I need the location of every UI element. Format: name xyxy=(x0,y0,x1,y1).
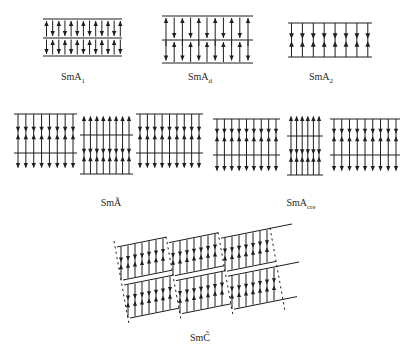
label-text: SmA xyxy=(61,71,82,82)
diagram-smctilde xyxy=(114,224,299,323)
label-smad: SmAd xyxy=(188,72,212,83)
diagram-sma1 xyxy=(43,19,123,56)
diagram-smad xyxy=(162,16,253,63)
diagram-smacre xyxy=(213,116,400,175)
label-text: SmA xyxy=(309,71,330,82)
label-text: SmA xyxy=(188,71,209,82)
label-text: SmA xyxy=(286,197,307,208)
figure-smectic-phases: SmA1 SmAd SmA2 SmÃ SmAcre SmC̃ xyxy=(0,0,405,358)
label-text: SmC̃ xyxy=(190,332,210,343)
label-smatilde: SmÃ xyxy=(101,198,122,209)
label-sma2: SmA2 xyxy=(309,72,333,83)
label-smacre: SmAcre xyxy=(286,198,315,209)
label-subscript: 2 xyxy=(330,77,334,85)
label-subscript: cre xyxy=(307,203,316,211)
label-smctilde: SmC̃ xyxy=(190,333,210,344)
label-text: SmÃ xyxy=(101,197,122,208)
label-subscript: 1 xyxy=(82,77,86,85)
diagram-smatilde xyxy=(14,114,203,174)
diagram-canvas xyxy=(0,0,405,358)
label-subscript: d xyxy=(209,77,213,85)
label-sma1: SmA1 xyxy=(61,72,85,83)
diagram-sma2 xyxy=(288,23,372,57)
